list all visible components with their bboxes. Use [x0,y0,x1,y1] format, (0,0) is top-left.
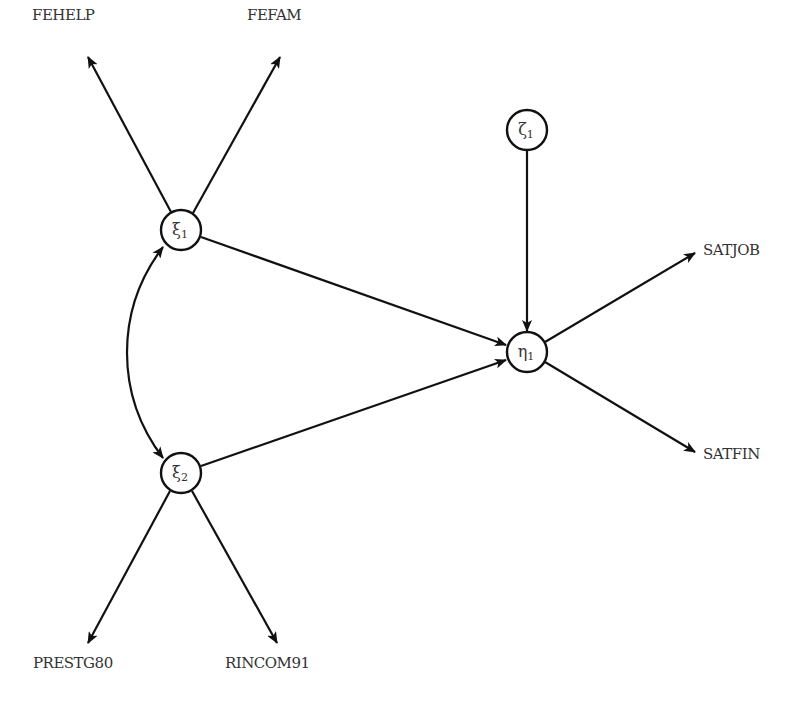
edge-xi1-fehelp [88,57,171,212]
edge-xi2-eta1 [201,360,506,466]
node-zeta1-symbol: ζ [518,120,527,139]
edge-xi2-prestg80 [88,491,170,643]
node-xi1-symbol: ξ [172,220,181,239]
node-xi2-symbol: ξ [172,463,181,482]
node-zeta1-label: ζ1 [518,122,534,140]
label-satfin: SATFIN [703,447,760,462]
edge-xi1-fefam [193,57,280,213]
edge-eta1-satfin [545,362,695,452]
node-xi1-label: ξ1 [172,222,188,240]
node-eta1-subscript: 1 [527,350,534,363]
edge-eta1-satjob [545,253,695,342]
path-diagram: ξ1 ξ2 η1 ζ1 FEHELP FEFAM SATJOB SATFIN P… [0,0,802,705]
edge-xi1-xi2-covariance [127,247,163,458]
label-fehelp: FEHELP [32,8,94,23]
edge-xi2-rincom91 [192,491,277,643]
diagram-canvas [0,0,802,705]
node-eta1-symbol: η [518,342,528,361]
node-zeta1-subscript: 1 [527,128,534,141]
node-xi2-label: ξ2 [172,465,188,483]
node-xi2-subscript: 2 [181,471,188,484]
edge-xi1-eta1 [201,237,506,345]
node-xi1-subscript: 1 [181,228,188,241]
label-satjob: SATJOB [703,243,760,258]
label-rincom91: RINCOM91 [225,656,310,671]
node-eta1-label: η1 [518,344,535,362]
label-prestg80: PRESTG80 [33,656,113,671]
label-fefam: FEFAM [247,8,301,23]
